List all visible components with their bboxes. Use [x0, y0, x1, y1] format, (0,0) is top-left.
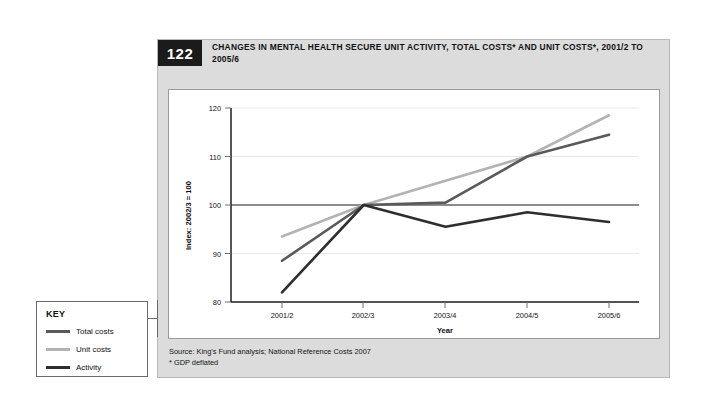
footnote-line: * GDP deflated	[169, 357, 639, 368]
legend-item-activity: Activity	[46, 361, 101, 373]
figure-number-badge: 122	[158, 40, 202, 66]
legend-swatch-unit-costs	[46, 348, 70, 351]
figure-title: CHANGES IN MENTAL HEALTH SECURE UNIT ACT…	[212, 41, 652, 65]
figure-panel: 122 CHANGES IN MENTAL HEALTH SECURE UNIT…	[157, 39, 670, 378]
x-tick-label-2001-2: 2001/2	[271, 311, 294, 320]
x-tick-label-2003-4: 2003/4	[434, 311, 457, 320]
legend-swatch-total-costs	[46, 330, 70, 333]
figure-header: 122 CHANGES IN MENTAL HEALTH SECURE UNIT…	[158, 40, 669, 88]
y-tick-label-80: 80	[213, 298, 221, 307]
legend-item-total-costs: Total costs	[46, 325, 114, 337]
x-tick-label-2002-3: 2002/3	[352, 311, 375, 320]
x-axis-title: Year	[437, 326, 453, 335]
key-connector	[148, 318, 158, 319]
y-tick-label-100: 100	[209, 201, 221, 210]
x-tick-label-2004-5: 2004/5	[516, 311, 539, 320]
legend-label-total-costs: Total costs	[76, 327, 114, 336]
series-line-total-costs	[282, 135, 609, 261]
legend-swatch-activity	[46, 366, 70, 369]
line-chart-svg: 120 110 100 90 80 Index: 2002/3 = 100 20…	[169, 90, 659, 338]
plot-card: 120 110 100 90 80 Index: 2002/3 = 100 20…	[168, 89, 660, 339]
series-line-unit-costs	[282, 115, 609, 236]
y-tick-label-120: 120	[209, 104, 221, 113]
figure-page: 122 CHANGES IN MENTAL HEALTH SECURE UNIT…	[0, 0, 702, 414]
legend-key-box: KEY Total costs Unit costs Activity	[36, 301, 148, 377]
x-axis-ticks	[282, 302, 609, 308]
y-tick-label-90: 90	[213, 250, 221, 259]
y-tick-label-110: 110	[209, 153, 221, 162]
legend-label-activity: Activity	[76, 363, 101, 372]
y-axis-ticks	[225, 108, 231, 302]
legend-label-unit-costs: Unit costs	[76, 345, 111, 354]
y-axis-title: Index: 2002/3 = 100	[184, 181, 193, 250]
source-block: Source: King's Fund analysis; National R…	[169, 346, 639, 368]
source-line: Source: King's Fund analysis; National R…	[169, 346, 639, 357]
legend-item-unit-costs: Unit costs	[46, 343, 111, 355]
x-tick-label-2005-6: 2005/6	[598, 311, 621, 320]
legend-title: KEY	[46, 309, 65, 319]
